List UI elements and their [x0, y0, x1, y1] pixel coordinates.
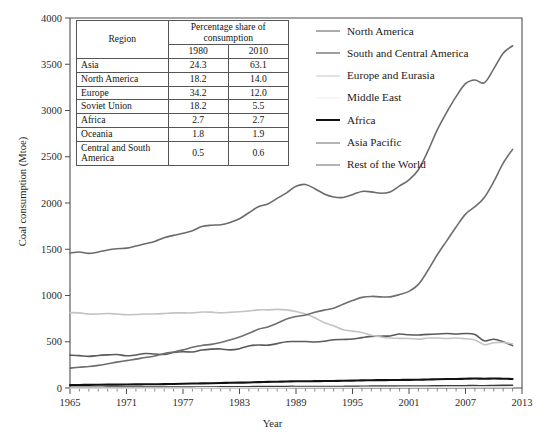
legend-label: Rest of the World	[347, 159, 426, 170]
series-line	[70, 309, 513, 344]
table-header-year-2010: 2010	[228, 45, 288, 59]
table-cell-region: Central and South America	[77, 141, 169, 165]
legend-line-icon	[316, 114, 340, 126]
legend-label: North America	[347, 26, 414, 37]
x-tick-label: 1971	[116, 397, 137, 408]
y-tick-label: 500	[46, 336, 62, 347]
legend-label: South and Central America	[347, 48, 468, 59]
legend-label: Europe and Eurasia	[347, 70, 435, 81]
table-row: North America18.214.0	[77, 72, 289, 86]
series-line	[70, 333, 513, 356]
x-tick-label: 1977	[173, 397, 194, 408]
y-tick-label: 2500	[41, 151, 62, 162]
table-row: Asia24.363.1	[77, 59, 289, 73]
legend-item[interactable]: Africa	[316, 109, 531, 131]
legend-label: Middle East	[347, 92, 401, 103]
y-tick-label: 1500	[41, 244, 62, 255]
table-header-row-1: Region Percentage share of consumption	[77, 21, 289, 45]
x-tick-label: 1965	[60, 397, 81, 408]
table-cell-region: Africa	[77, 114, 169, 128]
y-tick-label: 0	[57, 383, 62, 394]
table-cell-2010: 63.1	[228, 59, 288, 73]
table-row: Central and South America0.50.6	[77, 141, 289, 165]
x-axis-title: Year	[0, 418, 545, 429]
table-cell-region: Soviet Union	[77, 100, 169, 114]
table-body: Asia24.363.1North America18.214.0Europe3…	[77, 59, 289, 166]
table-cell-region: Europe	[77, 86, 169, 100]
y-tick-label: 3500	[41, 59, 62, 70]
table-cell-1980: 0.5	[168, 141, 228, 165]
table-cell-1980: 1.8	[168, 127, 228, 141]
table-row: Soviet Union18.25.5	[77, 100, 289, 114]
y-tick-label: 1000	[41, 290, 62, 301]
legend-item[interactable]: Europe and Eurasia	[316, 65, 531, 87]
table-cell-2010: 12.0	[228, 86, 288, 100]
table-cell-2010: 14.0	[228, 72, 288, 86]
legend-item[interactable]: Middle East	[316, 87, 531, 109]
table-header-year-1980: 1980	[168, 45, 228, 59]
x-tick-label: 2007	[455, 397, 476, 408]
legend-item[interactable]: Asia Pacific	[316, 131, 531, 153]
legend-label: Asia Pacific	[347, 137, 401, 148]
legend-line-icon	[316, 159, 340, 171]
table-cell-1980: 34.2	[168, 86, 228, 100]
x-tick-label: 1989	[286, 397, 307, 408]
table-cell-1980: 18.2	[168, 100, 228, 114]
table-cell-region: Oceania	[77, 127, 169, 141]
x-tick-label: 1983	[229, 397, 250, 408]
coal-consumption-figure: 0500100015002000250030003500400019651971…	[0, 0, 545, 439]
series-line	[70, 379, 513, 385]
legend-label: Africa	[347, 115, 376, 126]
table-header-span: Percentage share of consumption	[168, 21, 288, 45]
table-header-region: Region	[77, 21, 169, 59]
table-cell-2010: 0.6	[228, 141, 288, 165]
table-cell-1980: 18.2	[168, 72, 228, 86]
table-row: Oceania1.81.9	[77, 127, 289, 141]
legend-line-icon	[316, 137, 340, 149]
table-head: Region Percentage share of consumption 1…	[77, 21, 289, 59]
series-line	[70, 149, 513, 368]
table-cell-2010: 1.9	[228, 127, 288, 141]
legend-line-icon	[316, 25, 340, 37]
x-tick-label: 2001	[399, 397, 420, 408]
table-row: Africa2.72.7	[77, 114, 289, 128]
x-tick-label: 2013	[512, 397, 533, 408]
legend-item[interactable]: North America	[316, 20, 531, 42]
table-row: Europe34.212.0	[77, 86, 289, 100]
table-cell-1980: 2.7	[168, 114, 228, 128]
y-tick-label: 3000	[41, 105, 62, 116]
table-cell-region: North America	[77, 72, 169, 86]
table-cell-2010: 5.5	[228, 100, 288, 114]
legend-line-icon	[316, 92, 340, 104]
legend-line-icon	[316, 47, 340, 59]
table-cell-2010: 2.7	[228, 114, 288, 128]
chart-legend: North AmericaSouth and Central AmericaEu…	[316, 20, 531, 176]
y-axis-title: Coal consumption (Mtoe)	[17, 122, 28, 262]
percentage-share-table: Region Percentage share of consumption 1…	[76, 20, 289, 166]
y-tick-label: 4000	[41, 13, 62, 24]
legend-item[interactable]: Rest of the World	[316, 154, 531, 176]
table-cell-1980: 24.3	[168, 59, 228, 73]
y-tick-label: 2000	[41, 198, 62, 209]
legend-item[interactable]: South and Central America	[316, 42, 531, 64]
x-tick-label: 1995	[342, 397, 363, 408]
legend-line-icon	[316, 70, 340, 82]
table-cell-region: Asia	[77, 59, 169, 73]
